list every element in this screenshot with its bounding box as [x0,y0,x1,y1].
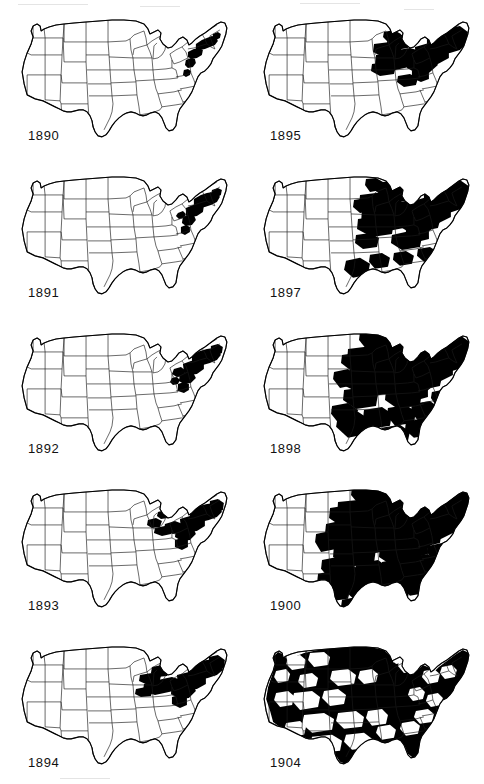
map-panel-1891[interactable]: 1891 [0,157,242,314]
year-label-1904: 1904 [270,755,301,770]
map-panel-1894[interactable]: 1894 [0,627,242,784]
map-geometry [349,582,382,605]
map-panel-1900[interactable]: 1900 [242,470,484,627]
map-geometry [341,597,368,614]
state-border [438,243,442,256]
unshaded-hole [424,729,441,743]
year-label-1893: 1893 [28,598,59,613]
unshaded-hole [358,749,380,765]
state-border [196,556,200,569]
nation-fill [22,334,227,451]
year-label-1898: 1898 [270,441,301,456]
state-border [196,243,200,256]
map-panel-1897[interactable]: 1897 [242,157,484,314]
unshaded-hole [436,713,450,727]
map-panel-1895[interactable]: 1895 [242,0,484,157]
nation-fill [22,177,227,294]
nation-fill [22,490,227,607]
nation-fill [22,20,227,137]
map-panel-1893[interactable]: 1893 [0,470,242,627]
map-geometry [363,595,392,613]
map-geometry [399,572,434,596]
year-label-1892: 1892 [28,441,59,456]
map-panel-1892[interactable]: 1892 [0,314,242,471]
year-label-1897: 1897 [270,285,301,300]
state-border [438,86,442,99]
state-border [438,556,442,569]
nation-fill [22,647,227,764]
map-geometry [423,567,448,587]
year-label-1894: 1894 [28,755,59,770]
unshaded-hole [382,743,402,758]
year-label-1890: 1890 [28,128,59,143]
year-label-1891: 1891 [28,285,59,300]
year-label-1900: 1900 [270,598,301,613]
map-panel-1904[interactable]: 1904 [242,627,484,784]
adopted-regions-1900 [315,485,473,614]
map-panel-1890[interactable]: 1890 [0,0,242,157]
state-border [438,399,442,412]
state-border [196,713,200,726]
nation-fill [264,20,469,137]
map-panel-1898[interactable]: 1898 [242,314,484,471]
state-border [196,86,200,99]
state-border [438,713,442,726]
year-label-1895: 1895 [270,128,301,143]
state-border [196,399,200,412]
map-series-grid: 1890189518911897189218981893190018941904 [0,0,484,784]
map-geometry [427,413,446,428]
